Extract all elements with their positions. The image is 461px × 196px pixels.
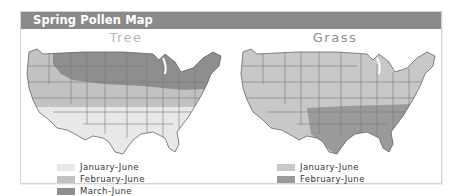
grass-pollen-map	[237, 44, 442, 156]
legend-swatch	[57, 188, 75, 195]
legend-label: February-June	[80, 174, 145, 184]
legend-swatch	[57, 164, 75, 171]
grass-legend: January-June February-June	[277, 161, 365, 185]
legend-swatch	[277, 164, 295, 171]
legend-swatch	[277, 176, 295, 183]
grass-map-title: Grass	[275, 30, 395, 45]
pollen-map-panel: Spring Pollen Map Tree Grass	[20, 11, 442, 184]
legend-item: March-June	[57, 185, 145, 196]
panel-title: Spring Pollen Map	[33, 13, 153, 27]
legend-label: January-June	[300, 162, 359, 172]
legend-swatch	[57, 176, 75, 183]
panel-header: Spring Pollen Map	[21, 12, 441, 29]
legend-item: January-June	[57, 161, 145, 173]
tree-legend: January-June February-June March-June	[57, 161, 145, 196]
legend-label: February-June	[300, 174, 365, 184]
tree-map-title: Tree	[66, 30, 186, 45]
legend-item: February-June	[57, 173, 145, 185]
legend-label: March-June	[80, 186, 132, 196]
legend-item: February-June	[277, 173, 365, 185]
tree-pollen-map	[23, 44, 228, 156]
legend-item: January-June	[277, 161, 365, 173]
legend-label: January-June	[80, 162, 139, 172]
